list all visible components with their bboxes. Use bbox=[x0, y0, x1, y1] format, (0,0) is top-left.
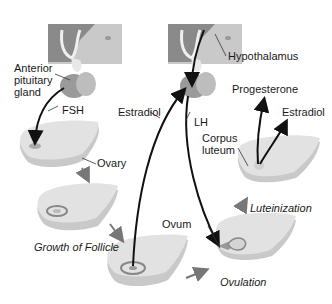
ovary-label: Ovary bbox=[97, 157, 126, 169]
hormone-cycle-diagram: Anterior pituitary gland FSH Estradiol H… bbox=[0, 0, 332, 304]
ovary-4 bbox=[215, 213, 296, 260]
lh-label: LH bbox=[194, 116, 208, 128]
growth-of-follicle-label: Growth of Follicle bbox=[34, 241, 119, 253]
stage-arrow-4 bbox=[240, 200, 246, 210]
fsh-label: FSH bbox=[62, 104, 84, 116]
ovary-2 bbox=[37, 183, 118, 230]
estradiol-output-label: Estradiol bbox=[282, 106, 325, 118]
ovum-label: Ovum bbox=[162, 218, 191, 230]
left-brain-pituitary bbox=[48, 24, 122, 98]
stage-arrow-1 bbox=[82, 168, 88, 180]
hypothalamus-label: Hypothalamus bbox=[228, 50, 298, 62]
diagram-graphics bbox=[0, 0, 332, 304]
corpus-luteum-label: Corpus luteum bbox=[202, 132, 237, 156]
ovary-3 bbox=[107, 235, 188, 287]
anterior-pituitary-label: Anterior pituitary gland bbox=[14, 62, 53, 98]
stage-arrow-3 bbox=[186, 270, 206, 278]
stage-arrow-2 bbox=[110, 224, 122, 240]
estradiol-feedback-label: Estradiol bbox=[118, 106, 161, 118]
progesterone-label: Progesterone bbox=[232, 83, 298, 95]
ovary-5 bbox=[238, 135, 320, 182]
ovulation-label: Ovulation bbox=[220, 276, 266, 288]
luteinization-label: Luteinization bbox=[250, 202, 312, 214]
